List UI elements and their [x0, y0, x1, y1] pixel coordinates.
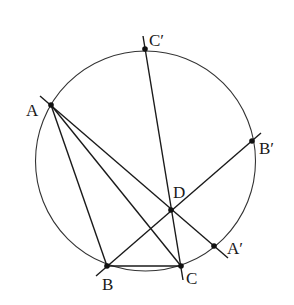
label-c-prime: C′	[149, 31, 164, 50]
label-b-prime: B′	[259, 139, 274, 158]
label-d: D	[173, 183, 185, 202]
circumcircle	[36, 51, 256, 271]
point-c-prime	[142, 46, 148, 52]
point-a	[48, 102, 54, 108]
label-b: B	[102, 275, 113, 294]
point-c	[178, 263, 184, 269]
label-a-prime: A′	[227, 239, 243, 258]
point-b	[104, 263, 110, 269]
label-a: A	[26, 101, 39, 120]
point-b-prime	[249, 138, 255, 144]
label-c: C	[186, 269, 197, 288]
line-a-a-prime	[40, 96, 228, 258]
geometry-diagram: A B C D A′ B′ C′	[0, 0, 294, 305]
point-d	[168, 207, 174, 213]
point-a-prime	[211, 243, 217, 249]
